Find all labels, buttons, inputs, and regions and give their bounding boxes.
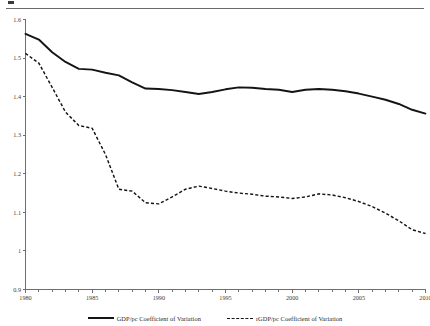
x-tick-label: 1990 xyxy=(153,294,165,301)
series-line-gdp-pc xyxy=(26,34,426,114)
legend-label-rgdp-pc: rGDP/pc Coefficient of Variation xyxy=(256,315,342,322)
y-tick-label: 1.2 xyxy=(13,170,21,177)
legend-label-gdp-pc: GDP/pc Coefficient of Variation xyxy=(117,315,201,322)
x-tick-label: 1995 xyxy=(219,294,231,301)
legend-item-rgdp-pc: rGDP/pc Coefficient of Variation xyxy=(227,315,342,322)
x-tick-label: 2010 xyxy=(419,294,430,301)
y-tick-label: 1.6 xyxy=(13,16,21,23)
x-tick-label: 1985 xyxy=(86,294,98,301)
y-tick-label: 1 xyxy=(18,247,21,254)
legend-item-gdp-pc: GDP/pc Coefficient of Variation xyxy=(88,315,201,322)
x-tick-label: 1980 xyxy=(19,294,31,301)
legend-swatch-solid-icon xyxy=(88,317,114,319)
y-tick-label: 1.3 xyxy=(13,131,21,138)
x-tick-label: 2005 xyxy=(353,294,365,301)
plot-area: 0.911.11.21.31.41.51.6 19801985199019952… xyxy=(0,0,430,326)
x-axis: 1980198519901995200020052010 xyxy=(19,290,430,302)
series-line-rgdp-pc xyxy=(26,53,426,233)
y-tick-label: 1.5 xyxy=(13,54,21,61)
legend-swatch-dashed-icon xyxy=(227,318,253,319)
figure-container: 0.911.11.21.31.41.51.6 19801985199019952… xyxy=(0,0,430,326)
y-tick-label: 0.9 xyxy=(13,286,21,293)
series-group xyxy=(26,34,426,234)
x-tick-label: 2000 xyxy=(286,294,298,301)
y-tick-label: 1.4 xyxy=(13,93,21,100)
chart-legend: GDP/pc Coefficient of Variation rGDP/pc … xyxy=(0,310,430,326)
y-axis: 0.911.11.21.31.41.51.6 xyxy=(13,16,25,293)
line-chart: 0.911.11.21.31.41.51.6 19801985199019952… xyxy=(0,0,430,326)
y-tick-label: 1.1 xyxy=(13,209,21,216)
